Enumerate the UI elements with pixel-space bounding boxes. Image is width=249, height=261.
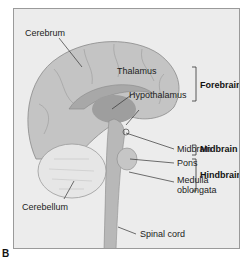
- label-pons: Pons: [177, 158, 198, 168]
- group-midbrain: Midbrain: [200, 144, 238, 154]
- label-cerebrum: Cerebrum: [25, 28, 65, 38]
- group-forebrain: Forebrain: [200, 80, 240, 90]
- diagram-frame: Cerebrum Thalamus Hypothalamus Midbrain …: [13, 8, 240, 249]
- brain-illustration: [14, 9, 240, 249]
- pons-shape: [117, 148, 137, 170]
- panel-letter: B: [2, 248, 9, 259]
- label-hypothalamus: Hypothalamus: [129, 90, 187, 100]
- label-cerebellum: Cerebellum: [22, 202, 68, 212]
- brainstem-shape: [104, 119, 125, 249]
- label-medulla-line2: oblongata: [177, 185, 217, 195]
- cerebellum-shape: [38, 144, 106, 198]
- label-spinal-cord: Spinal cord: [140, 229, 185, 239]
- group-hindbrain: Hindbrain: [200, 170, 240, 180]
- label-thalamus: Thalamus: [117, 66, 157, 76]
- forebrain-bracket: [192, 67, 196, 101]
